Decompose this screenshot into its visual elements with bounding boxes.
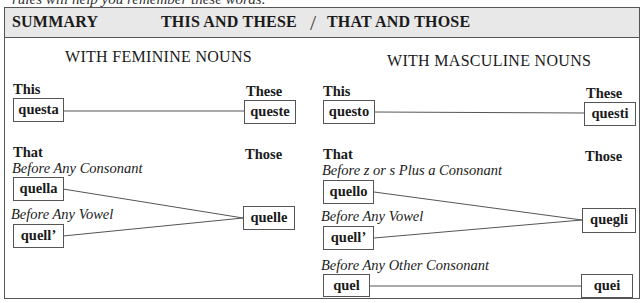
masculine-condition-label: Before Any Vowel xyxy=(321,208,423,225)
masculine-condition-label: Before Any Other Consonant xyxy=(321,257,489,274)
feminine-section-title: WITH FEMININE NOUNS xyxy=(65,48,252,66)
masculine-those-label: Those xyxy=(585,148,622,165)
masculine-this-label: This xyxy=(323,83,350,100)
feminine-that-form-box: quell’ xyxy=(13,224,64,248)
feminine-those-form-box: quelle xyxy=(243,206,295,230)
masculine-condition-label: Before z or s Plus a Consonant xyxy=(322,162,502,179)
feminine-this-label: This xyxy=(13,81,40,98)
masculine-these-label: These xyxy=(586,85,622,102)
feminine-those-label: Those xyxy=(245,146,282,163)
feminine-condition-label: Before Any Vowel xyxy=(11,206,113,223)
masculine-those-form-box: quei xyxy=(581,274,633,298)
masculine-section-title: WITH MASCULINE NOUNS xyxy=(387,52,591,70)
masculine-that-label: That xyxy=(323,146,353,163)
masculine-that-form-box: quel xyxy=(323,274,370,297)
feminine-that-label: That xyxy=(13,144,43,161)
feminine-these-label: These xyxy=(246,83,282,100)
masculine-those-form-box: quegli xyxy=(582,208,636,233)
masculine-that-form-box: quell’ xyxy=(323,226,374,250)
feminine-condition-label: Before Any Consonant xyxy=(12,160,143,177)
feminine-this-form-box: questa xyxy=(13,98,64,122)
masculine-this-form-box: questo xyxy=(323,100,375,124)
feminine-these-form-box: queste xyxy=(244,100,296,124)
feminine-that-form-box: quella xyxy=(13,177,64,201)
masculine-these-form-box: questi xyxy=(584,102,636,126)
masculine-that-form-box: quello xyxy=(323,180,374,204)
